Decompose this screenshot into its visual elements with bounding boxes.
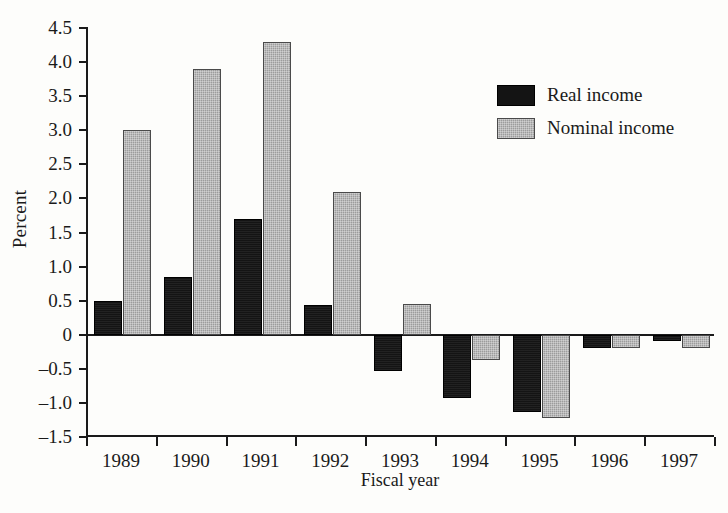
y-tick-mark xyxy=(79,197,88,199)
y-tick-mark xyxy=(79,368,88,370)
bar-nominal-income xyxy=(612,335,640,349)
gray-swatch xyxy=(497,118,535,139)
y-tick-mark xyxy=(79,266,88,268)
bar-real-income xyxy=(94,301,122,335)
bar-real-income xyxy=(374,335,402,371)
bar-real-income xyxy=(583,335,611,349)
bar-nominal-income xyxy=(263,42,291,335)
black-swatch xyxy=(497,85,535,106)
y-tick-label: –1.5 xyxy=(2,424,72,449)
bar-real-income xyxy=(443,335,471,398)
legend-item: Nominal income xyxy=(497,117,674,139)
y-tick-label: 4.5 xyxy=(2,15,72,40)
y-tick-label: 0 xyxy=(2,322,72,347)
y-tick-mark xyxy=(79,27,88,29)
x-tick-label: 1996 xyxy=(569,450,649,472)
legend-item-label: Real income xyxy=(547,84,643,106)
y-tick-label: 2.5 xyxy=(2,151,72,176)
x-tick-mark xyxy=(86,437,88,446)
x-tick-mark xyxy=(574,437,576,446)
y-tick-label: 1.0 xyxy=(2,254,72,279)
y-tick-label: 1.5 xyxy=(2,220,72,245)
bar-nominal-income xyxy=(472,335,500,360)
x-tick-mark xyxy=(295,437,297,446)
x-axis-title: Fiscal year xyxy=(86,470,714,491)
y-tick-mark xyxy=(79,95,88,97)
y-tick-mark xyxy=(79,163,88,165)
y-tick-label: 0.5 xyxy=(2,288,72,313)
bar-real-income xyxy=(513,335,541,412)
x-tick-label: 1992 xyxy=(290,450,370,472)
y-tick-label: 4.0 xyxy=(2,49,72,74)
y-tick-mark xyxy=(79,300,88,302)
bar-nominal-income xyxy=(542,335,570,418)
x-tick-label: 1991 xyxy=(220,450,300,472)
bar-real-income xyxy=(653,335,681,341)
bar-nominal-income xyxy=(123,130,151,335)
bar-nominal-income xyxy=(193,69,221,335)
x-tick-label: 1994 xyxy=(430,450,510,472)
x-tick-mark xyxy=(435,437,437,446)
bar-nominal-income xyxy=(333,192,361,335)
y-tick-mark xyxy=(79,61,88,63)
x-tick-mark xyxy=(644,437,646,446)
x-tick-label: 1990 xyxy=(151,450,231,472)
x-tick-label: 1989 xyxy=(81,450,161,472)
bar-real-income xyxy=(164,277,192,335)
bar-real-income xyxy=(234,219,262,335)
x-tick-label: 1995 xyxy=(500,450,580,472)
y-tick-label: 3.5 xyxy=(2,83,72,108)
y-tick-mark xyxy=(79,402,88,404)
legend: Real incomeNominal income xyxy=(497,84,674,150)
legend-item: Real income xyxy=(497,84,674,106)
y-tick-mark xyxy=(79,232,88,234)
x-tick-mark xyxy=(714,437,716,446)
y-tick-label: 2.0 xyxy=(2,185,72,210)
bar-nominal-income xyxy=(403,304,431,335)
bar-nominal-income xyxy=(682,335,710,348)
x-tick-label: 1993 xyxy=(360,450,440,472)
legend-item-label: Nominal income xyxy=(547,117,674,139)
x-tick-mark xyxy=(365,437,367,446)
x-tick-mark xyxy=(156,437,158,446)
bar-real-income xyxy=(304,305,332,335)
y-tick-label: –1.0 xyxy=(2,390,72,415)
x-tick-label: 1997 xyxy=(639,450,719,472)
y-tick-label: 3.0 xyxy=(2,117,72,142)
x-tick-mark xyxy=(505,437,507,446)
bar-chart-figure: Percent 4.54.03.53.02.52.01.51.00.50–0.5… xyxy=(0,0,728,513)
y-tick-label: –0.5 xyxy=(2,356,72,381)
y-tick-mark xyxy=(79,129,88,131)
y-tick-mark xyxy=(79,334,88,336)
x-tick-mark xyxy=(226,437,228,446)
